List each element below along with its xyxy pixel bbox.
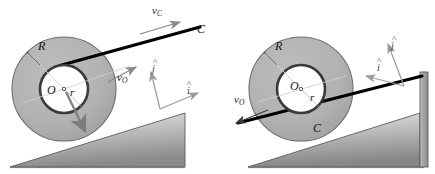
label-point-C-left: C xyxy=(197,23,205,35)
label-r-left: r xyxy=(70,87,74,98)
vector-vC-arrow-left xyxy=(140,22,180,34)
radius-r-tick-right xyxy=(317,105,320,108)
center-point-O-left xyxy=(62,87,65,90)
right-panel xyxy=(236,37,428,168)
hat-mark-j-left: ^ xyxy=(153,57,157,67)
axis-j-arrow-left xyxy=(151,72,160,109)
radius-r-tick-left xyxy=(80,105,83,108)
label-O-right: O xyxy=(290,80,299,92)
center-point-O-right xyxy=(299,87,302,90)
axis-i-arrow-left xyxy=(160,93,198,109)
axis-label-i-right: ^ i xyxy=(377,62,380,73)
figure-canvas xyxy=(0,0,435,174)
label-R-right: R xyxy=(275,40,282,52)
label-R-left: R xyxy=(38,40,45,52)
label-O-left: O xyxy=(47,84,56,96)
axis-label-j-left: ^ j xyxy=(152,63,155,74)
label-vO-sub-right: O xyxy=(239,98,244,107)
hat-mark-i-right: ^ xyxy=(377,56,381,66)
physics-figure: vC C R O r vO ^ j ^ i R O r C vO ^ j ^ i xyxy=(0,0,435,174)
hat-mark-j-right: ^ xyxy=(392,34,396,44)
anchor-post-right xyxy=(420,72,428,167)
hat-mark-i-left: ^ xyxy=(187,79,191,89)
label-point-C-right: C xyxy=(313,122,321,134)
label-r-right: r xyxy=(310,92,314,103)
label-vC-sub: C xyxy=(157,9,162,18)
label-vO-sub: O xyxy=(122,76,127,85)
axis-label-i-left: ^ i xyxy=(187,85,190,96)
label-vO-right: vO xyxy=(234,94,244,106)
axis-label-j-right: ^ j xyxy=(391,40,394,51)
label-vO-left: vO xyxy=(117,72,127,84)
label-vC-left: vC xyxy=(152,5,162,17)
